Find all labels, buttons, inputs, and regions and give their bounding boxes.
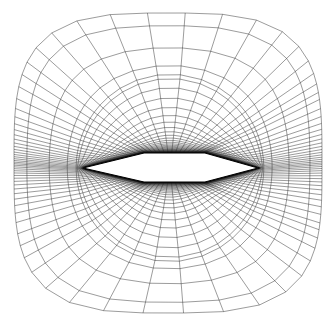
mesh-normal-line	[77, 21, 161, 153]
mesh-normal-line	[222, 177, 321, 190]
mesh-normal-line	[15, 117, 132, 156]
mesh-normal-line	[17, 99, 139, 155]
mesh-normal-line	[190, 182, 311, 261]
mesh-normal-line	[32, 182, 153, 272]
mesh-normal-line	[219, 129, 322, 157]
mesh-normal-line	[69, 182, 160, 302]
mesh-normal-line	[24, 182, 149, 258]
mesh-normal-line	[18, 182, 142, 234]
mesh-normal-line	[110, 15, 164, 153]
mesh-normal-line	[182, 182, 285, 292]
cfd-mesh-figure	[0, 0, 336, 330]
mesh-normal-line	[186, 182, 302, 276]
computational-mesh-plot	[0, 0, 336, 330]
mesh-normal-line	[205, 99, 320, 153]
mesh-normal-line	[14, 152, 103, 163]
mesh-normal-line	[197, 182, 317, 238]
mesh-normal-line	[14, 162, 85, 167]
mesh-normal-line	[36, 48, 153, 153]
mesh-normal-line	[215, 123, 321, 156]
mesh-normal-line	[194, 74, 314, 153]
mesh-normal-line	[19, 87, 143, 154]
mesh-normal-line	[208, 181, 321, 214]
mesh-normal-line	[237, 149, 322, 162]
mesh-normal-line	[179, 20, 256, 153]
mesh-normal-line	[15, 108, 135, 155]
mesh-normal-line	[20, 182, 145, 246]
mesh-normal-line	[14, 177, 120, 189]
mesh-normal-line	[27, 62, 150, 153]
mesh-normal-line	[14, 176, 117, 185]
